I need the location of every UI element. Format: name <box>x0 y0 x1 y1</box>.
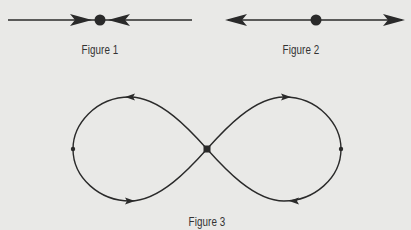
lobe-point <box>71 147 75 151</box>
figure-3-caption: Figure 3 <box>189 215 226 229</box>
figure-2-caption: Figure 2 <box>283 43 320 57</box>
equilibrium-point <box>311 15 322 26</box>
diagram-canvas <box>0 0 411 230</box>
arrow-left-icon <box>289 198 299 205</box>
left-lobe <box>73 97 207 201</box>
figure-1-diagram <box>8 14 192 26</box>
lobe-point <box>339 147 343 151</box>
equilibrium-point <box>95 15 106 26</box>
figure-1-caption: Figure 1 <box>82 43 119 57</box>
figure-2-diagram <box>225 14 405 26</box>
right-lobe <box>207 97 341 201</box>
saddle-point <box>204 146 211 153</box>
